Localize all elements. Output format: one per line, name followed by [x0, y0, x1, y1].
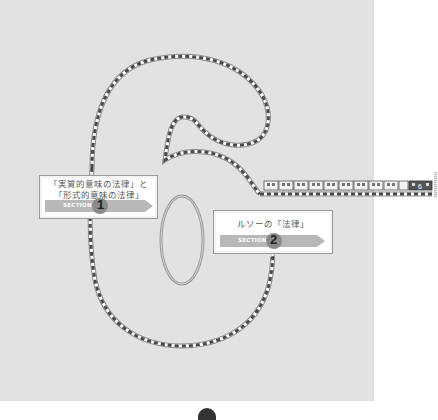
section-2-card[interactable]: ルソーの「法律」 SECTION 2 — [213, 210, 333, 254]
section-1-card[interactable]: 「実質的意味の法律」と 「形式的意味の法律」 SECTION 1 — [39, 175, 158, 219]
svg-text:6: 6 — [418, 183, 422, 190]
page-edge-tab — [434, 172, 437, 198]
section-2-ribbon: SECTION 2 — [220, 235, 317, 247]
section-1-number: 1 — [97, 197, 104, 212]
train: 6 — [264, 181, 432, 190]
section-1-ribbon: SECTION 1 — [45, 200, 145, 212]
section-2-number: 2 — [270, 232, 277, 247]
section-2-label: SECTION — [238, 237, 267, 243]
section-2-title: ルソーの「法律」 — [214, 219, 332, 230]
section-1-label: SECTION — [63, 202, 92, 208]
page-number-marker — [198, 408, 216, 420]
